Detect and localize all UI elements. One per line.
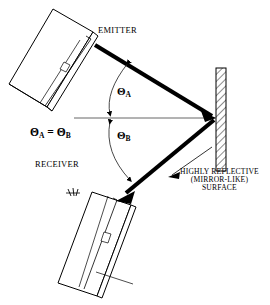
- emitter-label: EMITTER: [98, 26, 137, 35]
- angle-b-subscript: B: [126, 134, 131, 143]
- reflection-diagram: EMITTER RECEIVER ΘA ΘB ΘA = ΘB HIGHLY RE…: [0, 0, 270, 305]
- equation-operator: =: [47, 126, 54, 138]
- angle-a-label: ΘA: [117, 86, 131, 98]
- angle-b-label: ΘB: [117, 130, 131, 142]
- receiver-label: RECEIVER: [35, 160, 79, 169]
- equation-right-subscript: B: [66, 131, 71, 140]
- equation-left-symbol: Θ: [30, 126, 39, 138]
- receiver-device: [58, 188, 136, 298]
- emitter-device: [9, 9, 98, 111]
- angle-a-symbol: Θ: [117, 85, 126, 97]
- angle-a-subscript: A: [126, 90, 131, 99]
- hatched-mirror-icon: [216, 68, 226, 171]
- equation-left-subscript: A: [39, 131, 44, 140]
- mirror-caption-line-3: SURFACE: [180, 184, 259, 192]
- equation-right-symbol: Θ: [57, 126, 66, 138]
- angle-b-symbol: Θ: [117, 129, 126, 141]
- diagram-canvas: [0, 0, 270, 305]
- radiation-wave-icon: [66, 188, 80, 196]
- mirror-surface-caption: HIGHLY REFLECTIVE (MIRROR-LIKE) SURFACE: [180, 168, 259, 192]
- incident-beam-arrow-icon: [95, 45, 216, 122]
- angle-equality-equation: ΘA = ΘB: [30, 126, 71, 138]
